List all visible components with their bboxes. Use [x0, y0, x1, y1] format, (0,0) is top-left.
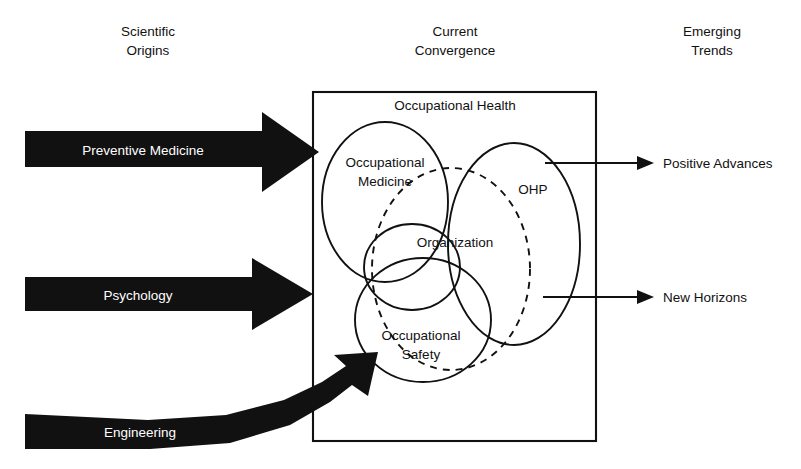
scientific-origins-line2: Origins: [127, 43, 170, 58]
column-heading-emerging-trends: Emerging Trends: [683, 24, 741, 58]
input-arrow-psychology: Psychology: [25, 258, 313, 330]
psychology-label: Psychology: [103, 288, 172, 303]
output-arrow-positive-advances: Positive Advances: [545, 156, 773, 171]
occupational-medicine-label-line2: Medicine: [358, 174, 412, 189]
input-arrow-preventive-medicine: Preventive Medicine: [25, 112, 319, 192]
input-arrow-engineering: Engineering: [25, 352, 378, 449]
organization-label: Organization: [417, 235, 494, 250]
engineering-label: Engineering: [104, 425, 176, 440]
occupational-medicine-label-line1: Occupational: [346, 155, 425, 170]
output-arrow-new-horizons: New Horizons: [543, 290, 747, 305]
preventive-medicine-label: Preventive Medicine: [82, 143, 204, 158]
occupational-health-container-box: [313, 92, 596, 441]
scientific-origins-line1: Scientific: [121, 24, 175, 39]
column-heading-current-convergence: Current Convergence: [415, 24, 495, 58]
emerging-trends-line1: Emerging: [683, 24, 741, 39]
new-horizons-label: New Horizons: [663, 290, 747, 305]
occupational-health-title: Occupational Health: [394, 98, 516, 113]
current-convergence-line2: Convergence: [415, 43, 495, 58]
emerging-trends-line2: Trends: [691, 43, 733, 58]
diagram-canvas: Scientific Origins Current Convergence E…: [0, 0, 801, 469]
column-heading-scientific-origins: Scientific Origins: [121, 24, 175, 58]
current-convergence-line1: Current: [432, 24, 477, 39]
occupational-safety-label-line1: Occupational: [382, 328, 461, 343]
ohp-label: OHP: [518, 182, 547, 197]
positive-advances-label: Positive Advances: [663, 156, 773, 171]
occupational-health-convergence-diagram: Scientific Origins Current Convergence E…: [0, 0, 801, 469]
